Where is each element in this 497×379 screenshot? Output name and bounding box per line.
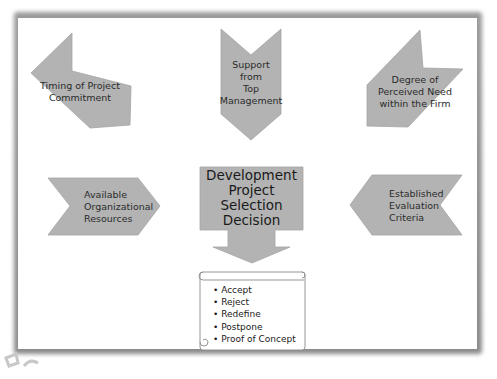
factor-label-timing: Timing of Project Commitment <box>28 80 132 104</box>
outcomes-list: Accept Reject Redefine Postpone Proof of… <box>213 284 296 345</box>
outcome-item: Proof of Concept <box>213 333 296 345</box>
factor-label-support: Support from Top Management <box>219 59 283 107</box>
outcome-item: Reject <box>213 296 296 308</box>
page-curl-mark <box>6 354 38 366</box>
outcome-item: Postpone <box>213 321 296 333</box>
factor-label-need: Degree of Perceived Need within the Firm <box>360 74 470 110</box>
outcome-item: Accept <box>213 284 296 296</box>
decision-label: Development Project Selection Decision <box>198 168 305 228</box>
outcome-item: Redefine <box>213 308 296 320</box>
factor-label-criteria: Established Evaluation Criteria <box>389 188 459 224</box>
factor-label-resources: Available Organizational Resources <box>84 189 154 225</box>
